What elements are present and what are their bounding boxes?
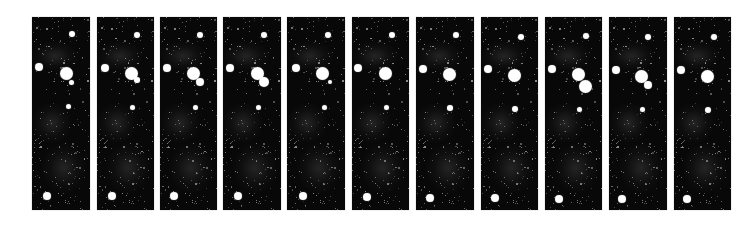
grain-speck: [395, 40, 396, 41]
grain-speck: [649, 25, 650, 26]
grain-speck: [471, 32, 472, 33]
grain-speck: [111, 89, 112, 90]
grain-speck: [88, 141, 89, 142]
grain-speck: [625, 160, 626, 161]
grain-speck: [65, 200, 66, 201]
grain-speck: [59, 146, 61, 148]
grain-speck: [693, 28, 694, 29]
grain-speck: [424, 186, 426, 188]
grain-speck: [87, 158, 88, 159]
grain-speck: [35, 162, 36, 163]
grain-speck: [313, 26, 314, 27]
grain-speck: [146, 209, 147, 210]
grain-speck: [79, 79, 80, 80]
grain-speck: [68, 201, 69, 202]
grain-speck: [138, 200, 139, 201]
grain-speck: [332, 30, 333, 31]
grain-speck: [699, 31, 700, 32]
grain-speck: [712, 83, 713, 84]
grain-speck: [185, 26, 186, 27]
grain-speck: [439, 93, 440, 94]
grain-speck: [250, 42, 251, 43]
grain-speck: [355, 176, 356, 177]
grain-speck: [489, 186, 491, 188]
grain-speck: [148, 158, 150, 160]
grain-speck: [725, 177, 726, 178]
grain-speck: [292, 207, 293, 208]
grain-speck: [262, 17, 263, 18]
grain-speck: [34, 147, 35, 148]
grain-speck: [227, 27, 229, 29]
grain-speck: [676, 186, 678, 188]
grain-speck: [89, 188, 90, 189]
grain-speck: [366, 134, 367, 135]
grain-speck: [164, 39, 165, 40]
grain-speck: [185, 193, 186, 194]
grain-speck: [585, 164, 586, 165]
moon-dot: [259, 77, 269, 87]
grain-speck: [170, 209, 171, 210]
grain-speck: [98, 32, 99, 33]
grain-speck: [68, 90, 69, 91]
star-dot: [43, 192, 51, 200]
frame-panel-3: [160, 17, 217, 210]
grain-speck: [511, 18, 512, 19]
grain-speck: [665, 36, 666, 37]
grain-speck: [714, 164, 715, 165]
grain-speck: [572, 40, 574, 42]
grain-speck: [72, 25, 73, 26]
grain-speck: [456, 25, 457, 26]
grain-speck: [84, 19, 85, 20]
grain-speck: [211, 150, 212, 151]
grain-speck: [723, 209, 724, 210]
grain-speck: [643, 68, 644, 69]
grain-speck: [329, 56, 330, 57]
grain-speck: [58, 21, 59, 22]
grain-speck: [682, 186, 684, 188]
grain-speck: [620, 112, 621, 113]
grain-speck: [393, 200, 394, 201]
grain-speck: [99, 41, 100, 42]
grain-speck: [622, 191, 623, 192]
grain-speck: [653, 36, 654, 37]
star-dot: [101, 64, 109, 72]
grain-speck: [548, 176, 549, 177]
grain-speck: [73, 63, 75, 65]
grain-speck: [720, 188, 721, 189]
grain-speck: [298, 54, 299, 55]
grain-speck: [530, 209, 531, 210]
grain-speck: [296, 197, 297, 198]
grain-speck: [185, 31, 186, 32]
grain-speck: [143, 167, 145, 169]
grain-speck: [137, 164, 138, 165]
grain-speck: [552, 29, 553, 30]
grain-speck: [54, 78, 56, 80]
grain-speck: [335, 122, 336, 123]
grain-speck: [730, 93, 731, 94]
grain-speck: [192, 43, 193, 44]
grain-speck: [677, 129, 678, 130]
grain-speck: [704, 193, 705, 194]
grain-speck: [680, 48, 682, 50]
grain-speck: [289, 41, 290, 42]
grain-speck: [664, 40, 665, 41]
grain-speck: [295, 44, 296, 45]
grain-speck: [391, 143, 393, 145]
grain-speck: [553, 135, 554, 136]
grain-speck: [635, 193, 636, 194]
star-dot: [618, 195, 626, 203]
grain-speck: [695, 81, 696, 82]
grain-speck: [436, 18, 438, 20]
grain-speck: [225, 21, 226, 22]
grain-speck: [355, 129, 356, 130]
grain-speck: [458, 169, 459, 170]
grain-speck: [373, 78, 375, 80]
grain-speck: [507, 202, 508, 203]
grain-speck: [518, 183, 519, 184]
grain-speck: [99, 143, 100, 144]
grain-speck: [394, 108, 395, 109]
grain-speck: [589, 167, 590, 168]
grain-speck: [568, 138, 569, 139]
grain-speck: [200, 63, 202, 65]
grain-speck: [430, 46, 431, 47]
